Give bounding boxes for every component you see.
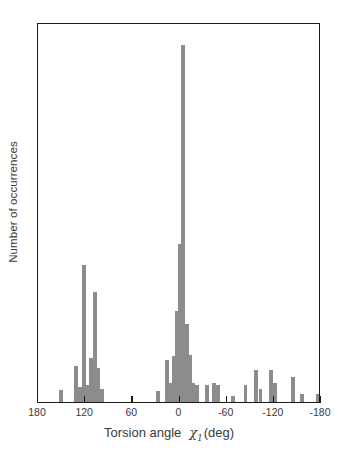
histogram-bar [269,370,273,402]
histogram-bar [156,391,160,402]
x-axis-tick-label: 0 [176,406,182,418]
histogram-bar [231,396,235,402]
histogram-bar [100,389,104,402]
histogram-bar [273,383,277,402]
bar-series [38,24,319,402]
histogram-bar [82,265,86,402]
histogram-bar [59,390,63,402]
y-axis-title: Number of occurrences [2,0,24,403]
histogram-bar [205,385,209,402]
y-axis-title-text: Number of occurrences [7,141,19,263]
histogram-bar [316,394,319,402]
x-axis-title-prefix: Torsion angle [104,425,181,440]
x-axis-tick-label: 60 [125,406,137,418]
x-axis-tick [320,396,321,403]
x-axis-tick-label: 120 [75,406,93,418]
x-axis-tick-labels: 180120600-60-120-180 [0,406,338,424]
x-axis-tick-label: -60 [218,406,233,418]
histogram-bar [216,385,220,402]
histogram-bar [244,385,248,402]
x-axis-title-subscript: 1 [197,433,202,443]
x-axis-tick-label: -120 [262,406,283,418]
x-axis-tick-label: -180 [309,406,330,418]
x-axis-title-units: (deg) [203,425,234,440]
plot-area [37,23,320,403]
histogram-bar [254,370,258,402]
histogram-bar [300,394,304,402]
histogram-bar [259,389,263,402]
histogram-bar [195,385,199,402]
figure-histogram: Number of occurrences 180120600-60-120-1… [0,0,338,457]
x-axis-tick-label: 180 [28,406,46,418]
x-axis-title: Torsion angleχ1(deg) [0,425,338,443]
histogram-bar [291,377,295,402]
